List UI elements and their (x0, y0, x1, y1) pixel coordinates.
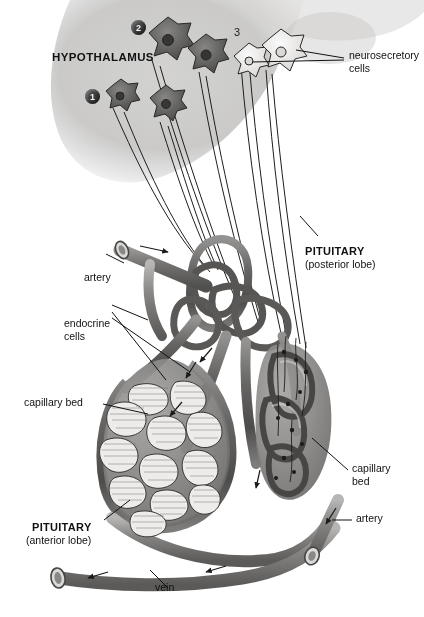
endocrine-cells-label-line1: endocrine (64, 318, 110, 330)
artery-label-right: artery (356, 513, 383, 525)
pituitary-anterior-subtitle: (anterior lobe) (26, 535, 91, 547)
neurosecretory-cells-label-line2: cells (349, 63, 370, 75)
figure-canvas: HYPOTHALAMUS 1 2 3 neurosecretory cells … (0, 0, 424, 617)
marker-3: 3 (234, 26, 240, 38)
capillary-bed-label-left: capillary bed (24, 397, 83, 409)
marker-2: 2 (131, 20, 146, 35)
pituitary-anterior-title: PITUITARY (32, 521, 92, 533)
posterior-lobe (256, 336, 332, 500)
endocrine-cells-label-line2: cells (64, 331, 85, 343)
neurosecretory-cells-label-line1: neurosecretory (349, 50, 419, 62)
marker-1: 1 (85, 89, 100, 104)
pituitary-posterior-subtitle: (posterior lobe) (305, 259, 376, 271)
capillary-bed-label-right-line2: bed (352, 476, 370, 488)
capillary-bed-label-right-line1: capillary (352, 463, 391, 475)
pituitary-posterior-title: PITUITARY (305, 245, 365, 257)
vein-label: vein (155, 582, 174, 594)
artery-label-left: artery (84, 272, 111, 284)
page-title-hypothalamus: HYPOTHALAMUS (52, 51, 154, 64)
